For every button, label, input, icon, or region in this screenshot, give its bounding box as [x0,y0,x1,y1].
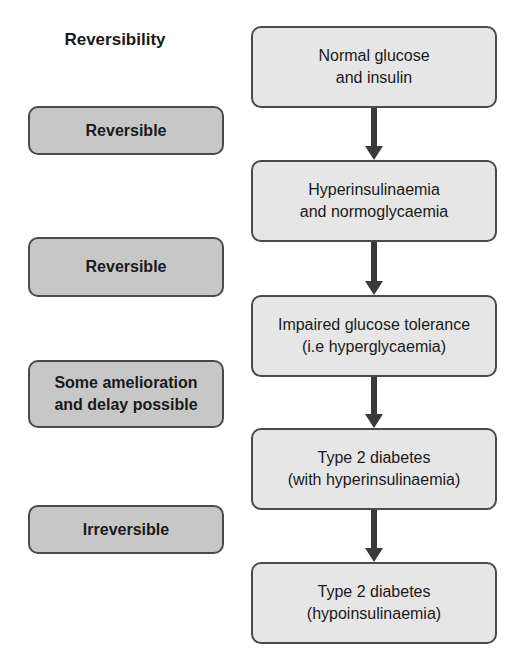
reversibility-label: Reversible [86,120,167,142]
stage-label: and insulin [318,67,429,89]
stage-box-normal: Normal glucose and insulin [251,26,497,108]
down-arrow-icon [369,242,379,295]
stage-box-t2d-hypo: Type 2 diabetes (hypoinsulinaemia) [251,562,497,644]
stage-label: Type 2 diabetes [288,447,461,469]
stage-label: Impaired glucose tolerance [278,314,470,336]
stage-box-t2d-hyper: Type 2 diabetes (with hyperinsulinaemia) [251,428,497,510]
reversibility-label: Reversible [86,256,167,278]
reversibility-label: Irreversible [83,519,169,541]
stage-label: (with hyperinsulinaemia) [288,469,461,491]
down-arrow-icon [369,377,379,428]
stage-box-hyperinsulinaemia: Hyperinsulinaemia and normoglycaemia [251,160,497,242]
stage-label: (i.e hyperglycaemia) [278,336,470,358]
reversibility-box-1: Reversible [28,106,224,155]
reversibility-box-3: Some amelioration and delay possible [28,360,224,428]
stage-label: Type 2 diabetes [307,581,441,603]
down-arrow-icon [369,510,379,562]
stage-label: Normal glucose [318,45,429,67]
stage-label: (hypoinsulinaemia) [307,603,441,625]
reversibility-box-4: Irreversible [28,505,224,554]
reversibility-label: Some amelioration [54,372,197,394]
down-arrow-icon [369,108,379,160]
stage-label: Hyperinsulinaemia [300,179,449,201]
reversibility-box-2: Reversible [28,237,224,297]
stage-box-impaired-glucose: Impaired glucose tolerance (i.e hypergly… [251,295,497,377]
reversibility-label: and delay possible [54,394,197,416]
stage-label: and normoglycaemia [300,201,449,223]
reversibility-heading: Reversibility [40,30,190,50]
